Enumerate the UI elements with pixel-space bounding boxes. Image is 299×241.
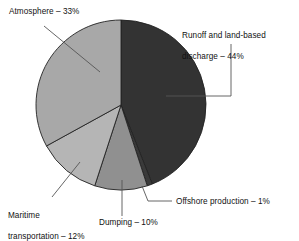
- pie-slices-group: [36, 20, 206, 190]
- slice-label-runoff-line1: Runoff and land-based: [182, 31, 266, 40]
- slice-label-runoff: Runoff and land-based discharge – 44%: [182, 20, 294, 62]
- pie-chart-figure: Atmosphere – 33% Runoff and land-based d…: [0, 0, 299, 241]
- leader-line-offshore: [142, 186, 172, 201]
- slice-label-maritime-line1: Maritime: [8, 211, 40, 220]
- slice-label-runoff-line2: discharge – 44%: [182, 52, 244, 61]
- slice-label-offshore: Offshore production – 1%: [176, 197, 270, 208]
- slice-label-maritime: Maritime transportation – 12%: [8, 200, 118, 241]
- slice-label-maritime-line2: transportation – 12%: [8, 232, 85, 241]
- slice-label-atmosphere: Atmosphere – 33%: [9, 7, 79, 18]
